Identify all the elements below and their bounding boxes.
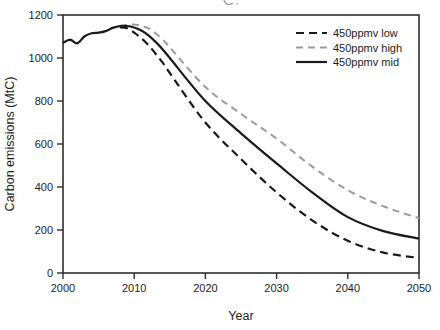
y-tick-label: 400 — [35, 181, 53, 193]
legend-item-high: 450ppmv high — [296, 42, 402, 54]
y-tick-label: 1000 — [29, 52, 53, 64]
x-tick-label: 2040 — [336, 282, 360, 294]
legend-item-low: 450ppmv low — [296, 27, 398, 39]
y-tick-label: 1200 — [29, 9, 53, 21]
x-axis-ticks: 200020102020203020402050 — [51, 273, 431, 294]
legend: 450ppmv low 450ppmv high 450ppmv mid — [296, 27, 402, 68]
y-axis-title: Carbon emissions (MtC) — [3, 77, 17, 212]
x-tick-label: 2050 — [407, 282, 431, 294]
y-tick-label: 0 — [47, 267, 53, 279]
y-tick-label: 200 — [35, 224, 53, 236]
cropped-text-artifact — [224, 0, 238, 4]
x-tick-label: 2020 — [193, 282, 217, 294]
plot-border — [63, 15, 419, 273]
carbon-emissions-chart: 020040060080010001200 200020102020203020… — [0, 0, 440, 330]
y-tick-label: 600 — [35, 138, 53, 150]
y-tick-label: 800 — [35, 95, 53, 107]
legend-label-high: 450ppmv high — [333, 42, 402, 54]
legend-item-mid: 450ppmv mid — [296, 56, 399, 68]
x-tick-label: 2030 — [264, 282, 288, 294]
x-axis-title: Year — [228, 309, 253, 323]
legend-label-low: 450ppmv low — [333, 27, 398, 39]
x-tick-label: 2010 — [122, 282, 146, 294]
legend-label-mid: 450ppmv mid — [333, 56, 399, 68]
x-tick-label: 2000 — [51, 282, 75, 294]
y-axis-ticks: 020040060080010001200 — [29, 9, 63, 279]
chart-figure: 020040060080010001200 200020102020203020… — [0, 0, 440, 330]
